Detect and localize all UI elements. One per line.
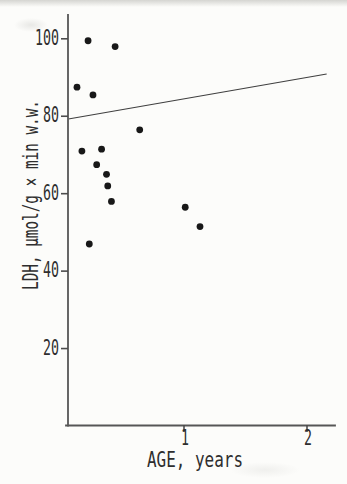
data-point	[197, 223, 204, 230]
y-tick-label: 60	[43, 181, 59, 205]
y-tick-label: 100	[35, 26, 59, 50]
data-point	[74, 84, 81, 91]
data-point	[86, 241, 93, 248]
data-point	[104, 183, 111, 190]
data-point	[93, 161, 100, 168]
ldh-vs-age-scatter-chart: 2040608010012 AGE, years LDH, μmol/g × m…	[0, 0, 347, 484]
trend-line	[68, 74, 326, 119]
data-point	[90, 92, 97, 99]
axes-layer	[66, 15, 335, 426]
figure-page: 2040608010012 AGE, years LDH, μmol/g × m…	[0, 0, 347, 484]
data-point	[182, 204, 189, 211]
x-axis-label: AGE, years	[147, 448, 243, 472]
y-tick-label: 40	[43, 258, 59, 282]
data-point	[79, 148, 86, 155]
data-point	[103, 171, 110, 178]
data-point	[98, 146, 105, 153]
y-tick-label: 20	[43, 336, 59, 360]
trend-layer	[68, 74, 326, 119]
data-point	[136, 126, 143, 133]
x-tick-label: 2	[304, 426, 312, 450]
point-layer	[74, 37, 204, 247]
y-axis-label: LDH, μmol/g × min w.w.	[19, 100, 43, 290]
data-point	[108, 198, 115, 205]
y-tick-label: 80	[43, 103, 59, 127]
data-point	[112, 43, 119, 50]
x-tick-label: 1	[181, 426, 189, 450]
data-point	[85, 37, 92, 44]
